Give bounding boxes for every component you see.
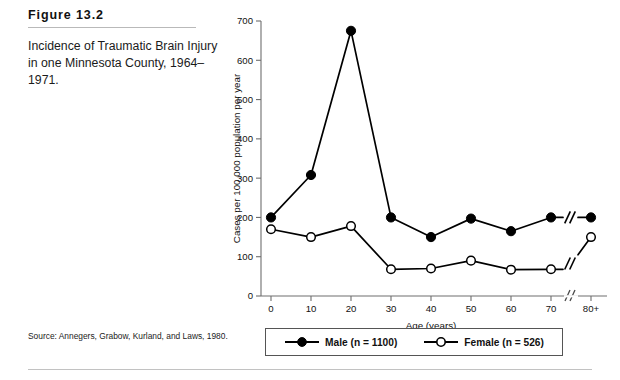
line-chart-svg: 0100200300400500600700Cases per 100,000 …	[228, 0, 620, 380]
series-break-mark-male	[570, 211, 576, 223]
figure-caption-block: Figure 13.2 Incidence of Traumatic Brain…	[28, 8, 228, 89]
figure-source-text: Source: Annegers, Grabow, Kurland, and L…	[28, 331, 238, 342]
filled-circle-icon	[284, 336, 320, 348]
data-point-male-30	[386, 213, 395, 222]
legend-entry-female: Female (n = 526)	[423, 336, 544, 348]
x-tick-label: 0	[268, 303, 273, 314]
x-tick-label: 10	[306, 303, 317, 314]
y-tick-label: 0	[248, 290, 253, 301]
x-tick-label: 80+	[583, 303, 600, 314]
x-tick-label: 40	[426, 303, 437, 314]
x-tick-label: 70	[546, 303, 557, 314]
data-point-female-0	[267, 225, 276, 234]
chart-render-group: 0100200300400500600700Cases per 100,000 …	[231, 15, 607, 331]
data-point-female-50	[467, 256, 476, 265]
x-tick-label: 50	[466, 303, 477, 314]
chart-legend: Male (n = 1100) Female (n = 526)	[265, 328, 563, 356]
x-tick-label: 60	[506, 303, 517, 314]
data-point-male-80+	[586, 213, 595, 222]
data-point-female-60	[507, 265, 516, 274]
series-break-mark-male	[565, 211, 571, 223]
chart-area: 0100200300400500600700Cases per 100,000 …	[228, 0, 620, 380]
data-point-male-20	[346, 26, 355, 35]
data-point-female-10	[307, 233, 316, 242]
y-tick-label: 100	[237, 251, 253, 262]
figure-number: Figure 13.2	[28, 8, 228, 23]
data-point-female-20	[347, 222, 356, 231]
x-tick-label: 20	[346, 303, 357, 314]
caption-divider	[28, 27, 196, 28]
legend-entry-male: Male (n = 1100)	[284, 336, 397, 348]
figure-container: Figure 13.2 Incidence of Traumatic Brain…	[0, 0, 620, 380]
data-point-female-80+	[587, 233, 596, 242]
data-point-female-70	[547, 265, 556, 274]
y-tick-label: 700	[237, 15, 253, 26]
x-tick-label: 30	[386, 303, 397, 314]
legend-label-male: Male (n = 1100)	[325, 337, 397, 348]
legend-label-female: Female (n = 526)	[464, 337, 544, 348]
data-point-female-30	[387, 265, 396, 274]
open-circle-icon	[423, 336, 459, 348]
data-point-male-70	[546, 213, 555, 222]
data-point-female-40	[427, 264, 436, 273]
series-line-female	[271, 226, 563, 270]
x-axis-break-gap	[564, 295, 578, 297]
y-axis-title: Cases per 100,000 population per year	[231, 73, 242, 243]
series-break-mark-female	[565, 257, 571, 269]
data-point-male-60	[506, 227, 515, 236]
data-point-male-10	[306, 170, 315, 179]
figure-caption-text: Incidence of Traumatic Brain Injury in o…	[28, 38, 228, 89]
series-line-male	[271, 31, 563, 237]
data-point-male-50	[466, 214, 475, 223]
series-break-mark-female	[570, 257, 576, 269]
y-tick-label: 600	[237, 55, 253, 66]
data-point-male-40	[426, 232, 435, 241]
data-point-male-0	[266, 213, 275, 222]
